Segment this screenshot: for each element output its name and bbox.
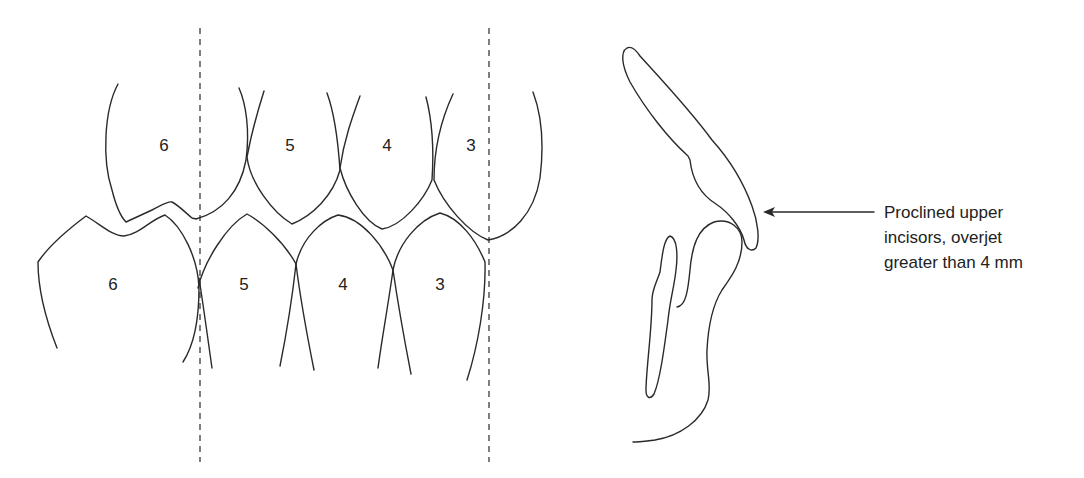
upper-tooth-labels: 6 5 4 3	[159, 136, 475, 155]
incisor-profile	[623, 47, 758, 442]
lower-tooth-label: 4	[338, 275, 347, 294]
annotation-arrow	[763, 207, 874, 217]
upper-tooth-label: 5	[285, 136, 294, 155]
caption-line: incisors, overjet	[884, 225, 1023, 250]
lower-tooth-label: 6	[108, 275, 117, 294]
lower-tooth-label: 3	[435, 275, 444, 294]
lower-tooth-5-outline	[198, 214, 314, 370]
upper-tooth-label: 3	[466, 136, 475, 155]
upper-tooth-label: 6	[159, 136, 168, 155]
lower-tooth-5-mesial-root-line	[199, 278, 212, 368]
caption-line: greater than 4 mm	[884, 250, 1023, 275]
annotation-caption: Proclined upper incisors, overjet greate…	[884, 200, 1023, 275]
upper-tooth-4-outline	[340, 96, 433, 229]
lower-tooth-5-distal-root-line	[280, 264, 296, 366]
lower-tooth-6-outline	[38, 215, 199, 362]
lower-teeth	[38, 213, 485, 380]
upper-incisor-outline	[623, 47, 758, 249]
upper-tooth-6-outline	[106, 84, 248, 222]
lower-tooth-label: 5	[239, 275, 248, 294]
upper-tooth-label: 4	[382, 136, 391, 155]
lower-incisor-outline	[633, 221, 742, 442]
lower-tooth-4-outline	[296, 215, 411, 374]
lower-lip-outline	[646, 236, 677, 397]
upper-teeth	[106, 84, 542, 240]
lower-tooth-4-distal-root-line	[378, 270, 393, 368]
upper-tooth-5-outline	[247, 91, 340, 224]
caption-line: Proclined upper	[884, 200, 1023, 225]
